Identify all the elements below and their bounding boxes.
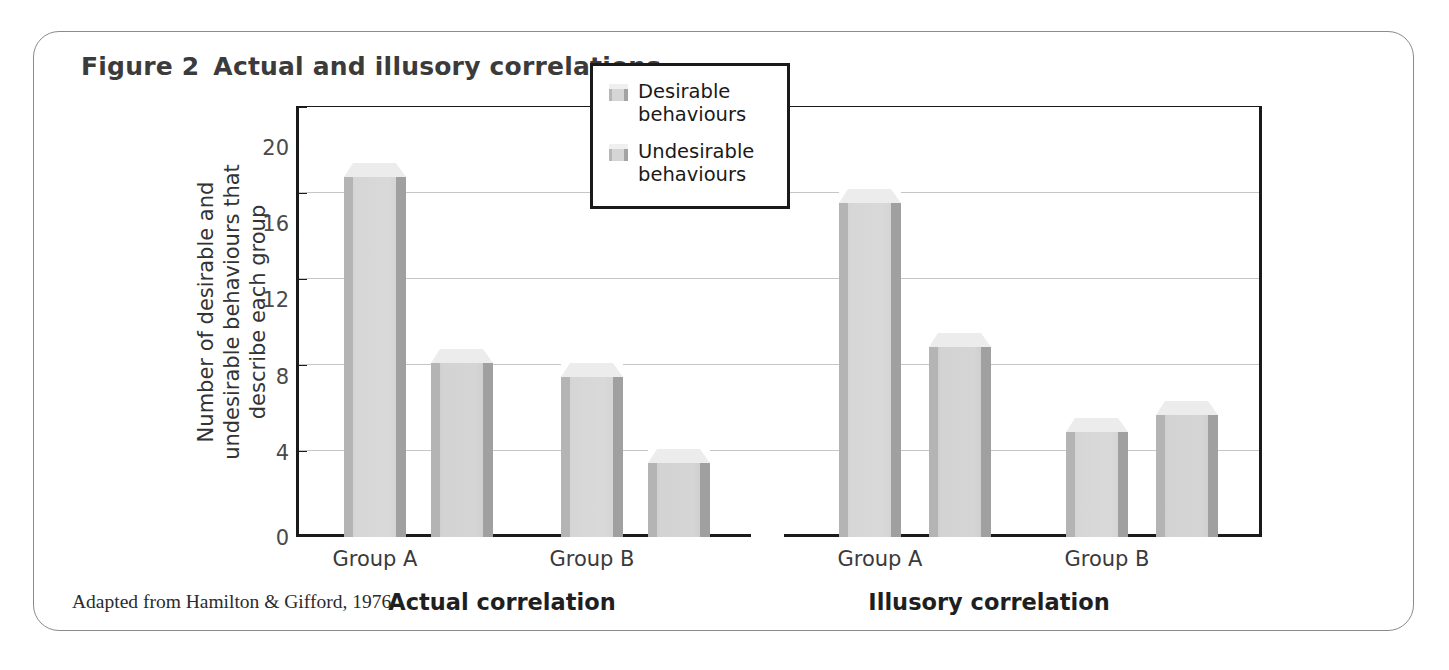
legend-label-line2: behaviours xyxy=(638,163,746,186)
figure-source-caption: Adapted from Hamilton & Gifford, 1976 xyxy=(72,591,391,613)
figure-card: Figure 2Actual and illusory correlations… xyxy=(33,31,1414,631)
bar-swatch-icon xyxy=(609,144,628,161)
y-tick-8: 8 xyxy=(235,365,289,389)
panel-illusory-correlation xyxy=(784,106,1262,537)
x-label-actual-groupB: Group B xyxy=(549,547,634,571)
bar-left-face xyxy=(1156,415,1165,537)
bar-top-face xyxy=(648,449,710,463)
bar-swatch-icon xyxy=(609,84,628,101)
bar-left-face xyxy=(929,347,938,537)
bar-actual-groupB-undesirable xyxy=(648,449,710,537)
bar-left-face xyxy=(431,363,440,537)
y-tick-4: 4 xyxy=(235,441,289,465)
x-label-illusory-groupB: Group B xyxy=(1064,547,1149,571)
y-tick-20: 20 xyxy=(235,136,289,160)
bar-top-face xyxy=(839,189,901,203)
bar-left-face xyxy=(648,463,657,537)
bar-top-face xyxy=(561,363,623,377)
bar-right-face xyxy=(613,377,623,537)
x-label-illusory-groupA: Group A xyxy=(838,547,923,571)
bar-right-face xyxy=(1208,415,1218,537)
y-tick-12: 12 xyxy=(235,288,289,312)
bar-actual-groupB-desirable xyxy=(561,363,623,537)
chart-legend: Desirable behaviours Undesirable behavio… xyxy=(590,63,790,209)
legend-label-line2: behaviours xyxy=(638,103,746,126)
bar-right-face xyxy=(700,463,710,537)
bar-right-face xyxy=(396,177,406,537)
bar-top-face xyxy=(344,163,406,177)
bar-illusory-groupA-desirable xyxy=(839,189,901,537)
bar-top-face xyxy=(1066,418,1128,432)
bar-top-face xyxy=(431,349,493,363)
x-label-actual-groupA: Group A xyxy=(333,547,418,571)
bar-top-face xyxy=(1156,401,1218,415)
bar-left-face xyxy=(561,377,570,537)
legend-label-undesirable: Undesirable behaviours xyxy=(638,140,754,186)
bar-illusory-groupB-desirable xyxy=(1066,418,1128,537)
bar-right-face xyxy=(891,203,901,537)
panel-caption-actual: Actual correlation xyxy=(388,589,615,615)
legend-item-undesirable: Undesirable behaviours xyxy=(609,140,777,186)
panel-caption-illusory: Illusory correlation xyxy=(868,589,1109,615)
legend-label-line1: Undesirable xyxy=(638,140,754,163)
bar-left-face xyxy=(344,177,353,537)
y-tick-16: 16 xyxy=(235,212,289,236)
y-tick-0: 0 xyxy=(235,526,289,550)
legend-item-desirable: Desirable behaviours xyxy=(609,80,777,126)
y-axis-ticks: 20 16 12 8 4 0 xyxy=(229,92,289,552)
bar-right-face xyxy=(981,347,991,537)
bar-left-face xyxy=(839,203,848,537)
bar-actual-groupA-undesirable xyxy=(431,349,493,537)
bar-left-face xyxy=(1066,432,1075,537)
bar-top-face xyxy=(929,333,991,347)
bar-illusory-groupB-undesirable xyxy=(1156,401,1218,537)
panel-top-line-right xyxy=(784,106,1262,107)
legend-label-line1: Desirable xyxy=(638,80,730,103)
legend-label-desirable: Desirable behaviours xyxy=(638,80,746,126)
bar-right-face xyxy=(483,363,493,537)
bar-actual-groupA-desirable xyxy=(344,163,406,537)
bar-right-face xyxy=(1118,432,1128,537)
bar-illusory-groupA-undesirable xyxy=(929,333,991,537)
chart-plot-area: Number of desirable and undesirable beha… xyxy=(34,32,1415,632)
